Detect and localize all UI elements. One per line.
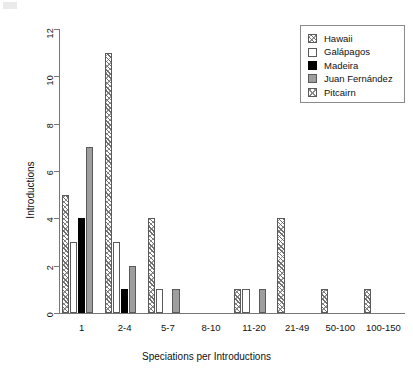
y-tick-label: 2 <box>45 265 55 270</box>
x-tick-label: 2-4 <box>118 322 132 333</box>
legend-swatch <box>308 34 317 43</box>
y-tick-label: 10 <box>45 75 55 85</box>
x-axis-line <box>60 313 405 314</box>
x-tick-label: 21-49 <box>285 322 309 333</box>
legend-item: Juan Fernández <box>308 72 404 85</box>
x-tick-label: 11-20 <box>242 322 266 333</box>
chart-legend: HawaiiGalápagosMadeiraJuan FernándezPitc… <box>300 25 405 103</box>
x-tick-label: 5-7 <box>161 322 175 333</box>
y-tick-label: 6 <box>45 170 55 175</box>
bar <box>105 53 112 313</box>
legend-swatch <box>308 88 317 97</box>
legend-label: Juan Fernández <box>324 74 393 84</box>
bar <box>113 242 120 313</box>
bar <box>86 147 93 313</box>
legend-item: Madeira <box>308 59 404 72</box>
bar <box>277 218 284 313</box>
legend-swatch <box>308 61 317 70</box>
y-tick-label: 8 <box>45 123 55 128</box>
legend-item: Galápagos <box>308 45 404 58</box>
scan-artifact <box>3 2 17 9</box>
x-axis-title: Speciations per Introductions <box>0 351 413 362</box>
y-tick-label: 4 <box>45 217 55 222</box>
legend-label: Galápagos <box>324 47 370 57</box>
bar <box>364 289 371 313</box>
bar <box>78 218 85 313</box>
bar <box>70 242 77 313</box>
bar <box>234 289 241 313</box>
y-tick-label: 12 <box>45 28 55 38</box>
bar <box>242 289 249 313</box>
bar <box>121 289 128 313</box>
legend-label: Hawaii <box>324 34 353 44</box>
legend-item: Hawaii <box>308 32 404 45</box>
bar <box>129 266 136 313</box>
x-tick-label: 50-100 <box>326 322 356 333</box>
legend-label: Pitcairn <box>324 88 356 98</box>
bar <box>259 289 266 313</box>
legend-swatch <box>308 74 317 83</box>
y-tick-label: 0 <box>45 312 55 317</box>
bar <box>321 289 328 313</box>
legend-item: Pitcairn <box>308 86 404 99</box>
y-axis-title: Introductions <box>25 161 36 218</box>
chart-figure: Introductions Speciations per Introducti… <box>0 0 413 379</box>
bar <box>156 289 163 313</box>
x-tick-label: 1 <box>79 322 84 333</box>
legend-label: Madeira <box>324 61 358 71</box>
legend-swatch <box>308 48 317 57</box>
bar <box>148 218 155 313</box>
x-tick-label: 100-150 <box>366 322 401 333</box>
x-tick-label: 8-10 <box>201 322 220 333</box>
bar <box>62 195 69 313</box>
bar <box>172 289 179 313</box>
